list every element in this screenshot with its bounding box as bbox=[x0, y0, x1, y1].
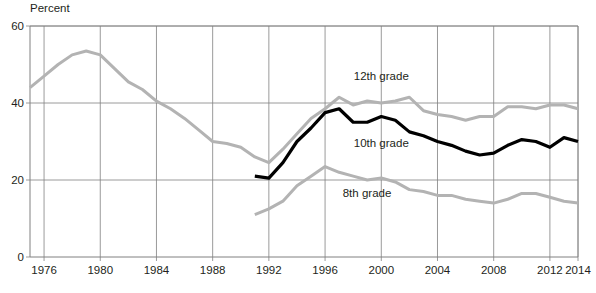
series-lines bbox=[30, 51, 578, 215]
x-tick-label-1980: 1980 bbox=[80, 264, 120, 276]
series-label-12th-grade: 12th grade bbox=[354, 70, 409, 82]
x-tick-label-2000: 2000 bbox=[361, 264, 401, 276]
y-tick-label-20: 20 bbox=[0, 174, 24, 186]
series-line-12th-grade bbox=[30, 51, 578, 163]
series-line-8th-grade bbox=[255, 167, 578, 215]
x-tick-label-1996: 1996 bbox=[305, 264, 345, 276]
x-tick-label-1992: 1992 bbox=[249, 264, 289, 276]
x-tick-label-1976: 1976 bbox=[24, 264, 64, 276]
x-tick-label-1988: 1988 bbox=[193, 264, 233, 276]
x-tick-label-1984: 1984 bbox=[136, 264, 176, 276]
x-tick-label-2014: 2014 bbox=[558, 264, 596, 276]
series-label-10th-grade: 10th grade bbox=[354, 137, 409, 149]
x-tick-label-2008: 2008 bbox=[474, 264, 514, 276]
y-tick-label-40: 40 bbox=[0, 97, 24, 109]
x-tick-label-2004: 2004 bbox=[417, 264, 457, 276]
y-tick-label-60: 60 bbox=[0, 20, 24, 32]
series-line-10th-grade bbox=[255, 109, 578, 178]
y-tick-label-0: 0 bbox=[0, 251, 24, 263]
series-label-8th-grade: 8th grade bbox=[343, 187, 392, 199]
